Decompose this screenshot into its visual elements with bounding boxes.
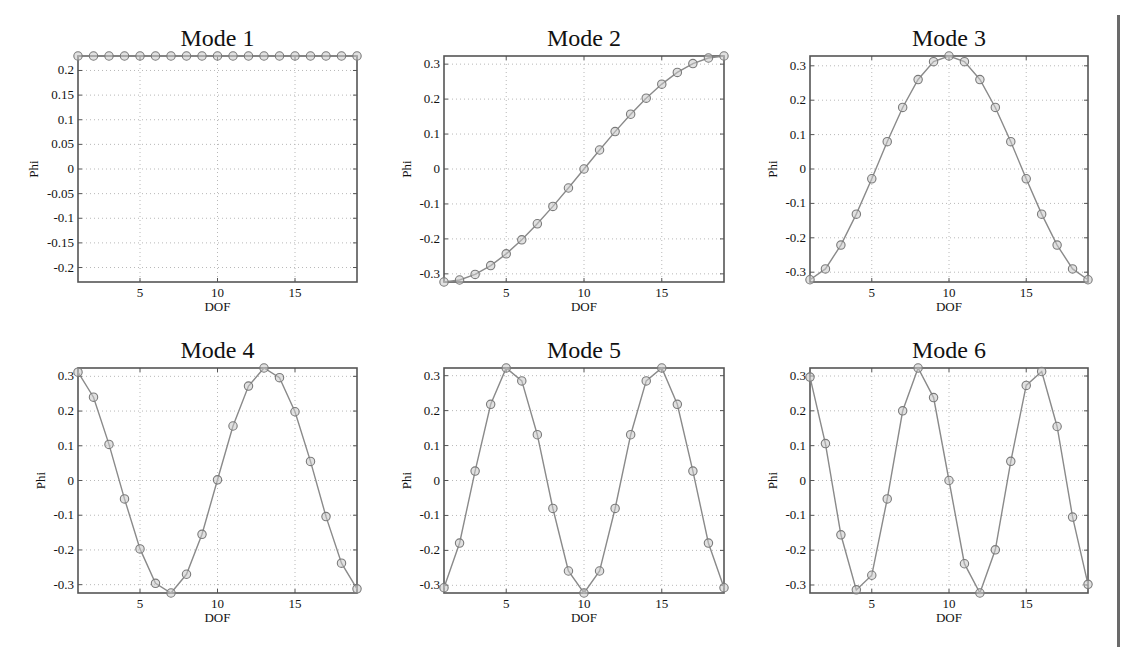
y-tick-label: 0 <box>68 473 75 488</box>
data-point-marker <box>868 175 876 183</box>
data-point-marker <box>929 393 937 401</box>
y-tick-label: -0.2 <box>419 231 440 246</box>
data-point-marker <box>1053 241 1061 249</box>
data-point-marker <box>1084 276 1092 284</box>
data-point-marker <box>1068 265 1076 273</box>
y-tick-label: 0 <box>800 161 807 176</box>
x-axis-label: DOF <box>204 610 230 625</box>
y-axis-label: Phi <box>399 471 414 489</box>
y-tick-label: -0.1 <box>53 507 74 522</box>
data-point-marker <box>689 467 697 475</box>
y-axis-label: Phi <box>26 160 41 178</box>
x-tick-label: 5 <box>137 285 144 300</box>
y-tick-label: 0.1 <box>790 127 806 142</box>
data-point-marker <box>291 408 299 416</box>
data-point-marker <box>533 220 541 228</box>
data-point-marker <box>151 579 159 587</box>
data-point-marker <box>244 382 252 390</box>
data-point-marker <box>337 559 345 567</box>
x-tick-label: 5 <box>503 285 510 300</box>
data-point-marker <box>306 457 314 465</box>
data-point-marker <box>1037 367 1045 375</box>
data-point-marker <box>275 52 283 60</box>
y-tick-label: 0.3 <box>424 56 440 71</box>
data-point-marker <box>136 545 144 553</box>
x-tick-label: 15 <box>655 285 668 300</box>
data-point-marker <box>260 52 268 60</box>
data-point-marker <box>1053 422 1061 430</box>
x-axis-label: DOF <box>571 610 597 625</box>
data-point-marker <box>275 374 283 382</box>
data-point-marker <box>198 52 206 60</box>
data-point-marker <box>74 368 82 376</box>
y-axis-label: Phi <box>765 160 780 178</box>
y-tick-label: -0.05 <box>47 186 74 201</box>
subplot-title: Mode 4 <box>181 337 255 363</box>
y-tick-label: -0.1 <box>419 196 440 211</box>
x-tick-label: 15 <box>655 596 668 611</box>
data-point-marker <box>689 59 697 67</box>
data-point-marker <box>673 400 681 408</box>
x-tick-label: 10 <box>943 285 956 300</box>
data-point-marker <box>821 265 829 273</box>
data-point-marker <box>260 364 268 372</box>
y-tick-label: -0.15 <box>47 235 74 250</box>
data-point-marker <box>704 539 712 547</box>
data-point-marker <box>549 202 557 210</box>
data-point-marker <box>486 261 494 269</box>
data-point-marker <box>1007 137 1015 145</box>
data-point-marker <box>595 567 603 575</box>
data-point-marker <box>914 364 922 372</box>
data-point-marker <box>991 546 999 554</box>
y-tick-label: 0.3 <box>790 368 806 383</box>
x-tick-label: 15 <box>289 285 302 300</box>
data-point-marker <box>914 75 922 83</box>
y-tick-label: 0.3 <box>424 368 440 383</box>
data-point-marker <box>898 103 906 111</box>
data-point-marker <box>198 530 206 538</box>
data-point-marker <box>322 512 330 520</box>
data-point-marker <box>518 377 526 385</box>
data-point-marker <box>337 52 345 60</box>
y-tick-label: 0.3 <box>790 58 806 73</box>
y-axis-ticks: 0.30.20.10-0.1-0.2-0.3 <box>419 56 724 281</box>
data-point-marker <box>960 57 968 65</box>
x-tick-label: 15 <box>1020 596 1033 611</box>
data-point-marker <box>720 584 728 592</box>
data-point-marker <box>852 586 860 594</box>
x-axis-ticks: 51015 <box>137 368 302 611</box>
data-point-marker <box>580 589 588 597</box>
mode-shape-line <box>810 56 1088 280</box>
y-tick-label: -0.2 <box>53 260 74 275</box>
subplot-mode-1: Mode 1510150.20.150.10.050-0.05-0.1-0.15… <box>26 25 361 314</box>
subplot-title: Mode 1 <box>181 25 255 51</box>
y-tick-label: -0.1 <box>419 507 440 522</box>
y-tick-label: -0.3 <box>785 577 806 592</box>
data-point-marker <box>533 431 541 439</box>
y-axis-label: Phi <box>399 160 414 178</box>
y-tick-label: 0.1 <box>424 438 440 453</box>
subplot-title: Mode 5 <box>547 337 621 363</box>
y-tick-label: 0.1 <box>58 112 74 127</box>
y-tick-label: -0.2 <box>785 230 806 245</box>
data-point-marker <box>1007 457 1015 465</box>
data-point-marker <box>502 250 510 258</box>
x-tick-label: 10 <box>578 285 591 300</box>
data-point-marker <box>704 54 712 62</box>
y-tick-label: 0.05 <box>51 136 74 151</box>
data-point-marker <box>642 94 650 102</box>
data-point-marker <box>322 52 330 60</box>
data-point-marker <box>1084 580 1092 588</box>
data-point-marker <box>1037 210 1045 218</box>
data-point-marker <box>626 431 634 439</box>
x-tick-label: 10 <box>211 285 224 300</box>
subplot-title: Mode 3 <box>912 25 986 51</box>
data-point-marker <box>960 560 968 568</box>
data-point-marker <box>1022 175 1030 183</box>
x-tick-label: 10 <box>943 596 956 611</box>
data-point-marker <box>945 476 953 484</box>
data-point-marker <box>642 377 650 385</box>
data-point-marker <box>89 393 97 401</box>
grid-lines <box>444 368 724 593</box>
data-point-marker <box>167 589 175 597</box>
